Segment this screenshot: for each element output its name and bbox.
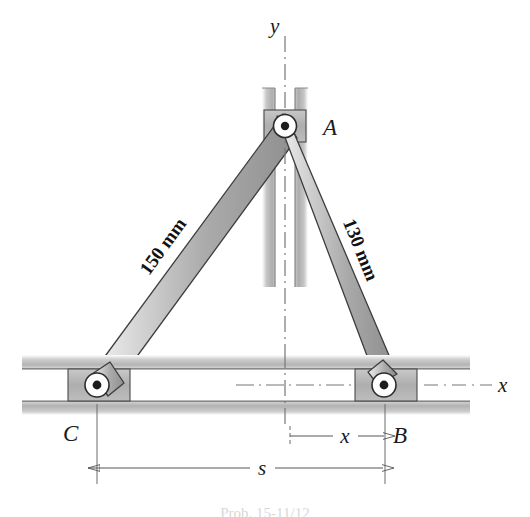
horizontal-guide-top-band — [22, 355, 470, 369]
point-b-label: B — [393, 423, 407, 448]
dimension-x-label: x — [339, 424, 350, 448]
point-c-label: C — [63, 421, 79, 446]
dimension-s: s — [99, 456, 383, 480]
dimension-x: x — [290, 424, 384, 448]
point-a-label: A — [321, 115, 338, 140]
pin-joint-a — [274, 115, 297, 138]
figure-caption: Prob. 15-11/12 — [0, 508, 530, 517]
horizontal-guide-bottom-band — [22, 401, 470, 415]
pin-joint-b — [372, 373, 396, 397]
pin-a-center — [281, 122, 289, 130]
x-axis-label: x — [497, 373, 508, 397]
pin-b-center — [380, 381, 389, 390]
figure-root: x s y x A C B 150 mm 130 mm Prob. 15-11/… — [0, 0, 530, 517]
pin-c-center — [93, 381, 102, 390]
dimension-s-label: s — [258, 456, 266, 480]
caption-strip: Prob. 15-11/12 — [0, 508, 530, 517]
pin-joint-c — [85, 373, 109, 397]
y-axis-label: y — [268, 14, 280, 38]
mechanism-diagram: x s y x A C B 150 mm 130 mm — [0, 0, 530, 517]
